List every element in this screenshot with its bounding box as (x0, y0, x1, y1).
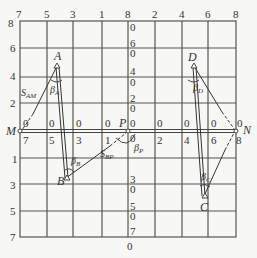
center-tick: 0 (130, 47, 136, 59)
axis-zero: 0 (76, 117, 82, 129)
left-tick: 6 (10, 42, 16, 54)
label-p: P (118, 116, 127, 130)
top-tick: 8 (233, 8, 239, 20)
label-c: C (200, 200, 209, 214)
axis-label: 7 (23, 134, 29, 146)
axis-zero: 0 (130, 117, 136, 129)
axis-label: 5 (49, 134, 55, 146)
point-m-marker (18, 129, 22, 133)
traverse-diagram: 7 5 3 1 8 2 4 6 8 8 6 4 2 1 3 5 7 0 6 0 … (0, 0, 257, 258)
axis-label: 1 (105, 134, 111, 146)
center-tick: 0 (127, 240, 133, 252)
top-tick: 6 (205, 8, 211, 20)
center-tick: 0 (130, 76, 136, 88)
top-tick: 2 (152, 8, 158, 20)
axis-label: 4 (184, 134, 190, 146)
point-c-marker (202, 193, 208, 198)
top-tick: 5 (44, 8, 50, 20)
top-tick: 3 (70, 8, 76, 20)
s-am-label: SAM (21, 87, 37, 100)
beta-c-label: βC (200, 171, 211, 184)
left-tick: 7 (10, 231, 16, 243)
label-a: A (53, 49, 62, 63)
axis-upper-zeros: 0 0 0 0 0 0 0 0 0 (23, 117, 243, 129)
axis-label: 2 (157, 134, 163, 146)
top-tick: 1 (99, 8, 105, 20)
center-tick: 7 (130, 225, 136, 237)
beta-a-label: βA (49, 84, 60, 97)
axis-lower-labels: 7 5 3 1 0 2 4 6 8 (23, 132, 242, 146)
axis-zero: 0 (184, 117, 190, 129)
label-n: N (242, 123, 252, 137)
left-tick: 3 (10, 179, 16, 191)
top-tick: 4 (179, 8, 185, 20)
left-tick: 8 (8, 17, 14, 29)
top-tick: 8 (125, 8, 131, 20)
axis-zero: 0 (211, 117, 217, 129)
point-a-marker (54, 63, 60, 68)
beta-p-label: βP (133, 142, 144, 155)
label-d: D (187, 50, 197, 64)
beta-d-label: βD (192, 82, 203, 95)
axis-zero: 0 (49, 117, 55, 129)
center-tick: 0 (130, 210, 136, 222)
center-tick: 0 (130, 102, 136, 114)
top-ticks: 7 5 3 1 8 2 4 6 8 (16, 8, 239, 20)
axis-label: 3 (76, 134, 82, 146)
axis-zero: 0 (23, 117, 29, 129)
left-tick: 5 (10, 205, 16, 217)
top-tick: 7 (16, 8, 22, 20)
axis-zero: 0 (157, 117, 163, 129)
beta-b-label: βB (70, 155, 81, 168)
label-m: M (5, 124, 17, 138)
point-n-marker (234, 129, 238, 133)
axis-label: 6 (211, 134, 217, 146)
center-tick: 0 (130, 183, 136, 195)
label-b: B (57, 174, 65, 188)
axis-label: 8 (236, 134, 242, 146)
left-tick: 4 (10, 70, 16, 82)
left-tick: 1 (12, 153, 18, 165)
axis-zero: 0 (105, 117, 111, 129)
left-tick: 2 (10, 97, 16, 109)
center-tick: 0 (130, 21, 136, 33)
